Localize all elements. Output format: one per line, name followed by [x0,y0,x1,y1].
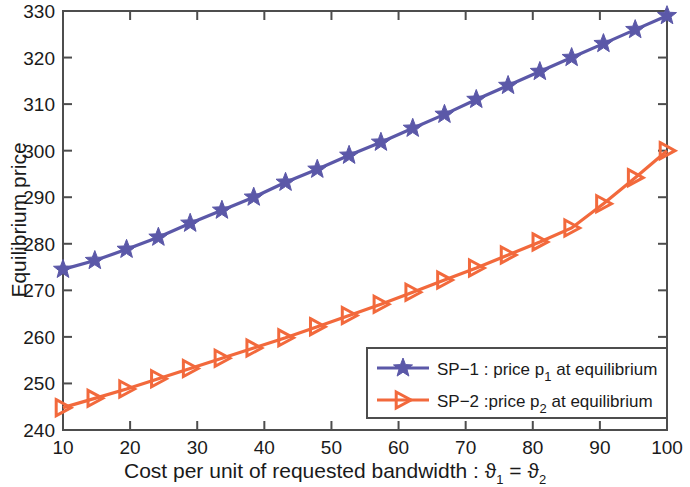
x-tick-label: 60 [388,437,409,458]
x-axis-title-sub1: 1 [496,472,503,487]
x-tick-label: 90 [589,437,610,458]
y-axis-title: Equilibrium price [7,142,30,297]
x-tick-label: 40 [254,437,275,458]
y-tick-label: 310 [23,94,55,115]
x-tick-label: 80 [522,437,543,458]
x-tick-label: 100 [651,437,683,458]
equilibrium-price-chart: 102030405060708090100 240250260270280290… [0,0,690,487]
x-tick-label: 10 [52,437,73,458]
y-tick-label: 250 [23,373,55,394]
svg-text:Cost per unit of requested ban: Cost per unit of requested bandwidth : ϑ… [124,459,546,487]
x-axis-title-main: Cost per unit of requested bandwidth : [124,459,485,482]
y-tick-label: 320 [23,48,55,69]
x-axis-title-theta2: ϑ [527,459,539,482]
legend[interactable]: SP−1 : price p1 at equilibriumSP−2 :pric… [367,348,667,418]
y-tick-label: 260 [23,327,55,348]
x-tick-label: 50 [321,437,342,458]
y-tick-label: 330 [23,1,55,22]
chart-svg: 102030405060708090100 240250260270280290… [0,0,690,487]
x-tick-label: 30 [187,437,208,458]
x-axis-title-sub2: 2 [539,472,546,487]
x-tick-label: 20 [120,437,141,458]
y-tick-label: 240 [23,420,55,441]
x-tick-label: 70 [455,437,476,458]
x-axis-title-theta1: ϑ [485,459,497,482]
x-axis-title-eq: = [503,459,527,482]
x-axis-title: Cost per unit of requested bandwidth : ϑ… [124,459,546,487]
x-axis-tick-labels: 102030405060708090100 [52,437,682,458]
